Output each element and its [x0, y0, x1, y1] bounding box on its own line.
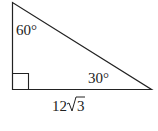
base-coefficient: 12 [52, 98, 67, 114]
base-length-label: 12 3 [52, 97, 85, 114]
triangle-diagram: 60° 30° 12 3 [0, 0, 158, 131]
base-radicand: 3 [77, 98, 85, 114]
angle-label-right: 30° [88, 70, 109, 86]
triangle [13, 3, 152, 90]
angle-label-top: 60° [16, 22, 37, 38]
right-angle-marker [13, 74, 29, 90]
